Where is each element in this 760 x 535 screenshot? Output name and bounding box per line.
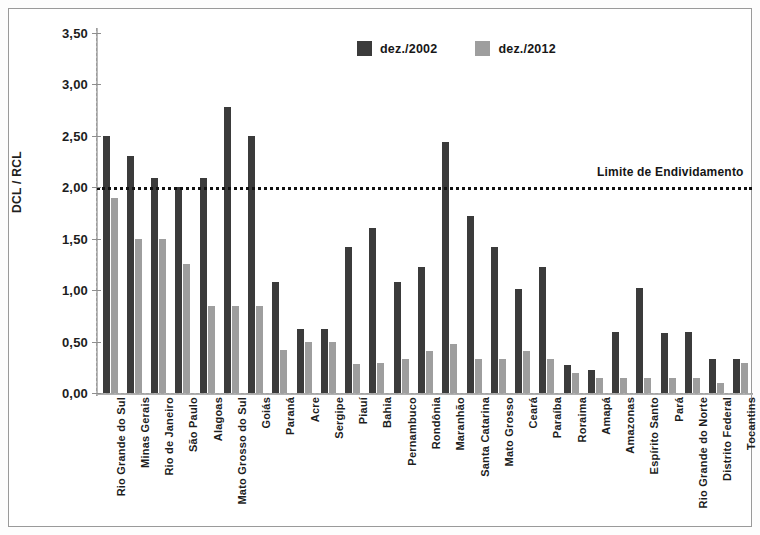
x-tick-label: Espírito Santo (648, 397, 660, 474)
bar-group (733, 33, 748, 393)
x-tick-label: Santa Catarina (479, 397, 491, 477)
x-tick-label: Maranhão (454, 397, 466, 451)
bar-group (491, 33, 506, 393)
bar-group (442, 33, 457, 393)
y-axis-tick-labels: 0,000,501,001,502,002,503,003,50 (26, 0, 88, 535)
bar (418, 267, 425, 394)
bar (515, 289, 522, 393)
x-tick-label: Ceará (527, 397, 539, 429)
y-tick-label: 1,00 (32, 283, 88, 298)
bar (232, 306, 239, 393)
bar (297, 329, 304, 393)
bar (596, 378, 603, 393)
legend-label: dez./2002 (380, 42, 437, 56)
y-tick-label: 3,50 (32, 26, 88, 41)
x-tick-label: Mato Grosso (503, 397, 515, 466)
bar (127, 156, 134, 393)
x-tick-label: Paraná (284, 397, 296, 435)
bar (636, 288, 643, 393)
y-axis-title: DCL / RCL (10, 151, 24, 213)
x-tick-label: Roraima (576, 397, 588, 442)
y-tick-label: 2,50 (32, 128, 88, 143)
x-tick-label: Amazonas (624, 397, 636, 454)
bar (103, 136, 110, 393)
y-tick-label: 2,00 (32, 180, 88, 195)
bar-group (272, 33, 287, 393)
legend-item: dez./2012 (475, 41, 555, 56)
bar (539, 267, 546, 394)
bar (159, 239, 166, 393)
x-tick-label: Alagoas (212, 397, 224, 441)
x-tick-label: Sergipe (333, 397, 345, 439)
bar-group (467, 33, 482, 393)
legend-label: dez./2012 (498, 42, 555, 56)
x-tick-label: Piauí (357, 397, 369, 424)
bar (741, 363, 748, 393)
y-tick-mark (92, 239, 101, 240)
bar (709, 359, 716, 393)
bar (669, 378, 676, 393)
x-tick-label: Tocantins (745, 397, 757, 450)
bar (661, 333, 668, 393)
bar (717, 383, 724, 393)
bar-group (515, 33, 530, 393)
bar (547, 359, 554, 393)
x-tick-label: Minas Gerais (139, 397, 151, 468)
bar (523, 351, 530, 393)
y-tick-mark (92, 33, 101, 34)
bar-group (224, 33, 239, 393)
x-tick-label: São Paulo (187, 397, 199, 452)
x-tick-label: Bahia (381, 397, 393, 428)
bar (685, 332, 692, 393)
bar (135, 239, 142, 393)
bar-group (369, 33, 384, 393)
x-tick-label: Mato Grosso do Sul (236, 397, 248, 505)
y-tick-label: 3,00 (32, 77, 88, 92)
bar-group (103, 33, 118, 393)
bar (200, 178, 207, 393)
x-axis-tick-labels: Rio Grande do SulMinas GeraisRio de Jane… (97, 397, 752, 532)
y-tick-label: 0,00 (32, 386, 88, 401)
bar-group (394, 33, 409, 393)
bar (394, 282, 401, 393)
y-tick-label: 0,50 (32, 334, 88, 349)
legend-swatch (475, 41, 490, 56)
bar (369, 228, 376, 393)
x-tick-label: Goiás (260, 397, 272, 429)
bar-group (321, 33, 336, 393)
bar (345, 247, 352, 393)
legend-swatch (357, 41, 372, 56)
x-tick-label: Distrito Federal (721, 397, 733, 481)
bar (442, 142, 449, 393)
bar (426, 351, 433, 393)
x-tick-label: Pará (673, 397, 685, 422)
bar-group (709, 33, 724, 393)
bar (321, 329, 328, 393)
bar (224, 107, 231, 393)
legend-item: dez./2002 (357, 41, 437, 56)
bar (693, 378, 700, 393)
bar-group (418, 33, 433, 393)
bar (620, 378, 627, 393)
x-tick-label: Acre (309, 397, 321, 422)
x-tick-label: Rio Grande do Sul (115, 397, 127, 496)
bar-group (175, 33, 190, 393)
bar (280, 350, 287, 393)
bar-group (685, 33, 700, 393)
y-tick-mark (92, 393, 101, 394)
x-tick-label: Rio Grande do Norte (697, 397, 709, 508)
bar (572, 373, 579, 393)
x-tick-label: Amapá (600, 397, 612, 435)
bar (353, 364, 360, 393)
bar-group (345, 33, 360, 393)
x-tick-label: Paraíba (551, 397, 563, 438)
limit-line-label: Limite de Endividamento (597, 165, 744, 179)
bar (248, 136, 255, 393)
bar (612, 332, 619, 393)
x-tick-label: Rondônia (430, 397, 442, 449)
limit-line (97, 187, 752, 190)
x-tick-label: Pernambuco (406, 397, 418, 466)
bar-group (151, 33, 166, 393)
y-tick-mark (92, 290, 101, 291)
bar-group (248, 33, 263, 393)
